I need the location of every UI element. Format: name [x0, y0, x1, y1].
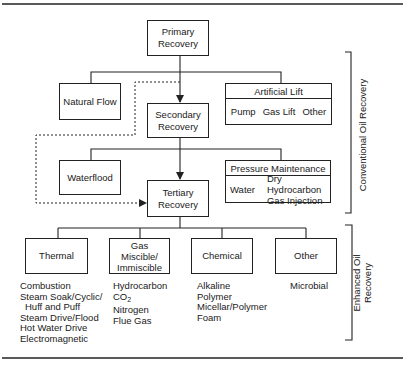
waterflood-label: Waterflood [67, 172, 113, 184]
enhanced-label-2: Recovery [362, 253, 373, 313]
waterflood-box: Waterflood [59, 160, 121, 195]
conventional-bracket-label: Conventional Oil Recovery [357, 75, 369, 195]
secondary-label-1: Secondary [155, 109, 200, 121]
secondary-recovery-box: SecondaryRecovery [147, 103, 209, 138]
pressure-maintenance-box: Pressure Maintenance Water Dry Hydrocarb… [225, 160, 331, 203]
chemical-list: Alkaline Polymer Micellar/Polymer Foam [197, 281, 267, 323]
natural-flow-label: Natural Flow [63, 96, 116, 108]
gas-list: Hydrocarbon CO2 Nitrogen Flue Gas [113, 281, 167, 326]
other-box: Other [275, 238, 337, 274]
chemical-box: Chemical [191, 238, 253, 274]
list-item: Huff and Puff [20, 302, 102, 313]
gas-label-1: Gas [117, 240, 162, 251]
natural-flow-box: Natural Flow [59, 83, 121, 120]
enhanced-label-1: Enhanced Oil [351, 253, 362, 313]
tertiary-label-1: Tertiary [158, 187, 198, 199]
list-item: Nitrogen [113, 305, 167, 316]
tertiary-recovery-box: TertiaryRecovery [147, 180, 209, 217]
thermal-list: Combustion Steam Soak/Cyclic/ Huff and P… [20, 281, 102, 344]
thermal-label: Thermal [39, 250, 74, 262]
artificial-lift-other: Other [302, 106, 326, 117]
artificial-lift-pump: Pump [231, 106, 256, 117]
other-list: Microbial [290, 281, 328, 292]
co2-base: CO [113, 291, 127, 302]
primary-recovery-box: PrimaryRecovery [147, 20, 209, 56]
thermal-box: Thermal [25, 238, 88, 274]
list-item: Electromagnetic [20, 334, 102, 345]
gas-label-3: Immiscible [117, 262, 162, 273]
list-item: Alkaline [197, 281, 267, 292]
tertiary-label-2: Recovery [158, 199, 198, 211]
artificial-lift-gas-lift: Gas Lift [263, 106, 296, 117]
list-item: Flue Gas [113, 316, 167, 327]
primary-label-2: Recovery [158, 38, 198, 50]
enhanced-bracket-label: Enhanced Oil Recovery [351, 253, 375, 313]
list-item: Micellar/Polymer [197, 302, 267, 313]
co2-subscript: 2 [127, 296, 131, 303]
list-item-co2: CO2 [113, 292, 167, 306]
pressure-dry-hydrocarbon: Dry Hydrocarbon [267, 173, 330, 195]
list-item: Microbial [290, 281, 328, 292]
other-label: Other [294, 250, 318, 262]
chemical-label: Chemical [202, 250, 242, 262]
primary-label-1: Primary [158, 26, 198, 38]
secondary-label-2: Recovery [155, 121, 200, 133]
list-item: Hot Water Drive [20, 323, 102, 334]
gas-box: GasMiscible/Immiscible [109, 238, 170, 274]
artificial-lift-box: Artificial Lift Pump Gas Lift Other [225, 83, 332, 125]
pressure-water: Water [230, 184, 255, 195]
list-item: Foam [197, 313, 267, 324]
gas-label-2: Miscible/ [117, 251, 162, 262]
artificial-lift-header: Artificial Lift [226, 84, 331, 99]
list-item: Combustion [20, 281, 102, 292]
pressure-gas-injection: Gas Injection [267, 195, 330, 206]
